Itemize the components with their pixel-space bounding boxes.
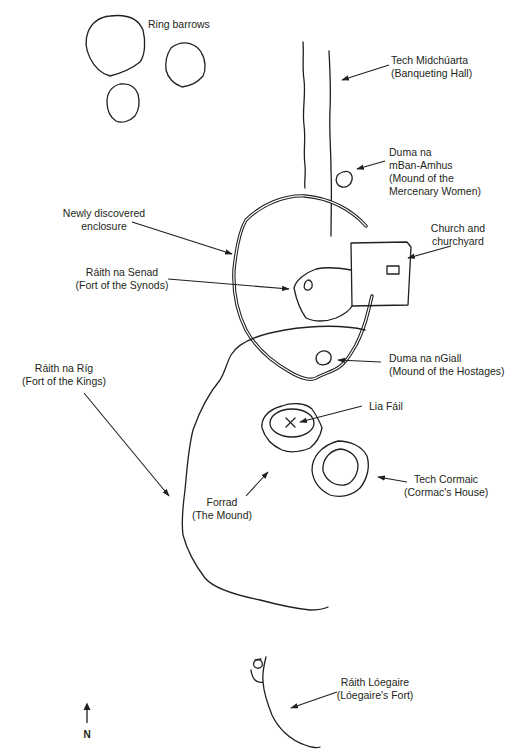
banqueting-hall-east-bank xyxy=(329,51,331,236)
arrow-forrad xyxy=(246,472,268,496)
forrad xyxy=(262,404,322,452)
label-raith-na-senad: Ráith na Senad (Fort of the Synods) xyxy=(70,266,174,292)
north-indicator: N xyxy=(80,702,94,740)
church-and-churchyard xyxy=(351,242,411,306)
banqueting-hall xyxy=(303,42,331,236)
duma-na-ngiall-mound xyxy=(316,351,331,365)
label-tech-cormaic: Tech Cormaic (Cormac's House) xyxy=(404,473,488,499)
label-lia-fail: Lia Fáil xyxy=(369,400,403,413)
tech-cormaic-inner-ring xyxy=(323,449,358,485)
arrow-raith-loegaire xyxy=(291,692,337,708)
arrow-raith-na-senad xyxy=(168,279,289,289)
label-forrad: Forrad (The Mound) xyxy=(186,496,258,522)
raith-loegaire-outline xyxy=(263,657,320,748)
raith-loegaire-ditch xyxy=(251,670,263,682)
label-newly-discovered-enclosure: Newly discovered enclosure xyxy=(52,207,156,233)
raith-loegaire-small-mound xyxy=(254,659,263,668)
arrow-tech-midchuarta xyxy=(342,65,389,80)
label-ring-barrows: Ring barrows xyxy=(148,18,210,31)
label-duma-mban-amhus: Duma na mBan-Amhus (Mound of the Mercena… xyxy=(389,146,481,198)
arrow-tech-cormaic xyxy=(378,477,407,482)
label-raith-loegaire: Ráith Lóegaire (Lóegaire's Fort) xyxy=(332,676,418,702)
churchyard-boundary xyxy=(351,242,411,306)
raith-na-senad-outline xyxy=(294,268,352,321)
label-tech-midchuarta: Tech Midchúarta (Banqueting Hall) xyxy=(391,54,472,80)
banqueting-hall-west-bank xyxy=(303,42,305,188)
arrow-raith-na-rig xyxy=(84,393,169,496)
church-building xyxy=(387,266,399,274)
ring-barrow-small xyxy=(107,84,139,122)
raith-na-senad xyxy=(294,268,352,321)
label-church-and-churchyard: Church and churchyard xyxy=(425,222,491,248)
duma-mban-amhus-mound xyxy=(336,171,352,187)
tech-cormaic xyxy=(312,441,368,496)
raith-loegaire xyxy=(251,657,320,748)
raith-na-senad-inner-mound xyxy=(304,280,312,290)
arrow-duma-mban-amhus xyxy=(357,161,385,169)
ring-barrow-large xyxy=(86,16,144,76)
lia-fail-marker xyxy=(286,418,295,427)
ring-barrow-right xyxy=(166,43,205,87)
label-raith-na-rig: Ráith na Ríg (Fort of the Kings) xyxy=(16,362,112,388)
ring-barrows xyxy=(86,16,205,123)
north-arrow-icon xyxy=(80,702,94,724)
label-duma-na-ngiall: Duma na nGiall (Mound of the Hostages) xyxy=(389,352,505,378)
forrad-inner-ring xyxy=(270,409,314,437)
north-letter: N xyxy=(80,729,94,740)
